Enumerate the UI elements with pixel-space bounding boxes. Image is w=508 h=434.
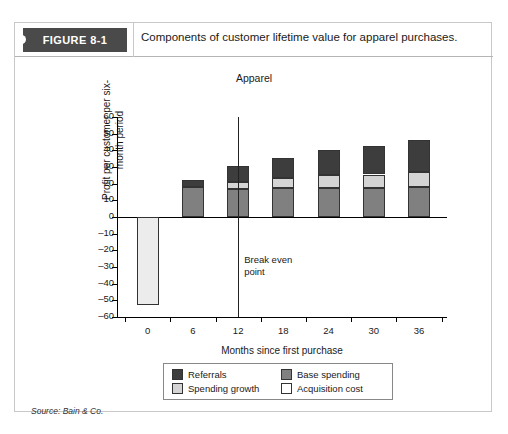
x-tick-label: 24 xyxy=(314,325,344,336)
legend-swatch-base-spending xyxy=(281,369,292,380)
bar-segment xyxy=(272,188,294,217)
legend-label-spending-growth: Spending growth xyxy=(188,383,259,394)
y-tick-label: –10 xyxy=(88,227,114,238)
x-tick-label: 12 xyxy=(223,325,253,336)
y-tick-label: 20 xyxy=(88,177,114,188)
y-tick-label: 10 xyxy=(88,193,114,204)
x-tick xyxy=(261,317,262,322)
y-tick-label: 40 xyxy=(88,143,114,154)
legend-item-base-spending: Base spending xyxy=(281,369,384,380)
x-tick xyxy=(216,317,217,322)
legend-swatch-spending-growth xyxy=(172,383,183,394)
x-tick-label: 30 xyxy=(359,325,389,336)
bar-segment xyxy=(272,178,294,188)
figure-header: FIGURE 8-1 Components of customer lifeti… xyxy=(15,23,493,57)
bar-segment xyxy=(408,140,430,172)
break-even-label-line1: Break even xyxy=(244,254,292,266)
x-tick xyxy=(170,317,171,322)
x-tick xyxy=(125,317,126,322)
y-tick-label: –60 xyxy=(88,310,114,321)
bar-stack xyxy=(272,117,294,317)
legend-item-referrals: Referrals xyxy=(172,369,275,380)
figure-number-label: FIGURE 8-1 xyxy=(43,34,108,46)
x-tick xyxy=(442,317,443,322)
bar-stack xyxy=(363,117,385,317)
bar-stack xyxy=(408,117,430,317)
bar-segment xyxy=(318,150,340,175)
bar-segment xyxy=(137,217,159,305)
bar-segment xyxy=(272,158,294,178)
x-tick-label: 18 xyxy=(268,325,298,336)
header-divider xyxy=(133,23,134,57)
plot-area: 6050403020100–10–20–30–40–50–60 06121824… xyxy=(117,117,447,317)
legend-swatch-referrals xyxy=(172,369,183,380)
break-even-line xyxy=(238,117,239,317)
x-tick-label: 0 xyxy=(133,325,163,336)
y-tick-label: 50 xyxy=(88,127,114,138)
source-note: Source: Bain & Co. xyxy=(31,406,103,416)
x-tick xyxy=(351,317,352,322)
legend-item-spending-growth: Spending growth xyxy=(172,383,275,394)
bar-segment xyxy=(363,175,385,188)
y-tick-label: 60 xyxy=(88,110,114,121)
y-tick-label: –20 xyxy=(88,243,114,254)
legend-swatch-acquisition-cost xyxy=(281,383,292,394)
chart-title: Apparel xyxy=(15,72,493,84)
bar-segment xyxy=(408,172,430,187)
bar-segment xyxy=(408,187,430,217)
x-tick-label: 6 xyxy=(178,325,208,336)
figure-number-badge: FIGURE 8-1 xyxy=(23,28,127,52)
y-tick-label: –30 xyxy=(88,260,114,271)
badge-notch-icon xyxy=(17,35,26,44)
bar-segment xyxy=(318,188,340,217)
legend-item-acquisition-cost: Acquisition cost xyxy=(281,383,384,394)
x-axis-line xyxy=(117,317,447,318)
bar-segment xyxy=(182,180,204,187)
bar-stack xyxy=(137,117,159,317)
x-tick xyxy=(306,317,307,322)
bar-segment xyxy=(363,146,385,174)
y-tick-label: –40 xyxy=(88,277,114,288)
x-tick xyxy=(396,317,397,322)
break-even-label: Break even point xyxy=(244,254,292,278)
bar-segment xyxy=(363,188,385,217)
x-axis-title: Months since first purchase xyxy=(117,345,447,356)
y-tick-label: –50 xyxy=(88,293,114,304)
break-even-label-line2: point xyxy=(244,266,292,278)
legend-label-acquisition-cost: Acquisition cost xyxy=(297,383,363,394)
legend-label-base-spending: Base spending xyxy=(297,369,360,380)
legend-label-referrals: Referrals xyxy=(188,369,227,380)
bar-segment xyxy=(182,187,204,217)
y-tick-label: 30 xyxy=(88,160,114,171)
x-tick-label: 36 xyxy=(404,325,434,336)
y-tick-label: 0 xyxy=(88,210,114,221)
bar-stack xyxy=(182,117,204,317)
bar-segment xyxy=(318,175,340,188)
figure-card: FIGURE 8-1 Components of customer lifeti… xyxy=(14,22,492,412)
figure-caption: Components of customer lifetime value fo… xyxy=(141,31,457,43)
chart-legend: Referrals Base spending Spending growth … xyxy=(163,363,393,400)
chart-body: Apparel Profit per customer per six-mont… xyxy=(15,57,493,412)
bar-stack xyxy=(318,117,340,317)
